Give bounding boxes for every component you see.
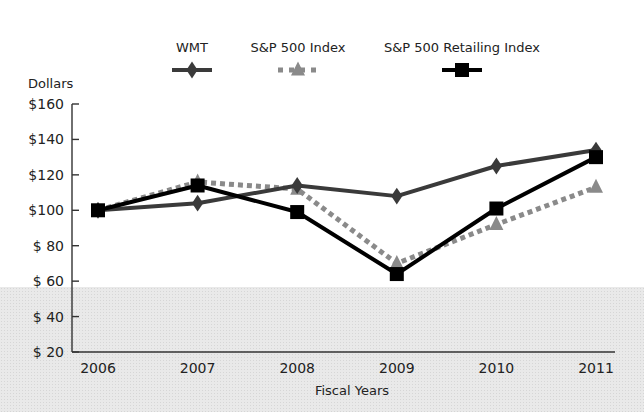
square-marker-icon	[589, 150, 603, 164]
diamond-marker-icon	[186, 62, 197, 79]
legend-item: WMT	[172, 40, 212, 78]
x-axis-label: Fiscal Years	[315, 383, 389, 398]
y-tick-label: $ 80	[33, 238, 64, 254]
y-tick-label: $120	[28, 167, 64, 183]
series-wmt	[92, 142, 601, 219]
legend-item: S&P 500 Index	[250, 40, 345, 76]
series-s-p-500-index	[91, 174, 603, 269]
diamond-marker-icon	[192, 195, 203, 212]
y-tick-label: $100	[28, 202, 64, 218]
square-marker-icon	[455, 63, 469, 77]
square-marker-icon	[290, 205, 304, 219]
y-tick-label: $ 20	[33, 344, 64, 360]
legend-item: S&P 500 Retailing Index	[384, 40, 540, 77]
square-marker-icon	[489, 202, 503, 216]
triangle-marker-icon	[589, 179, 603, 193]
square-marker-icon	[390, 267, 404, 281]
square-marker-icon	[91, 203, 105, 217]
x-tick-label: 2008	[279, 360, 315, 376]
y-tick-label: $160	[28, 96, 64, 112]
x-tick-label: 2010	[479, 360, 515, 376]
legend-label: S&P 500 Index	[250, 40, 345, 55]
y-tick-label: $ 40	[33, 309, 64, 325]
legend: WMTS&P 500 IndexS&P 500 Retailing Index	[172, 40, 540, 78]
square-marker-icon	[191, 178, 205, 192]
diamond-marker-icon	[491, 158, 502, 175]
y-tick-label: $ 60	[33, 273, 64, 289]
diamond-marker-icon	[391, 188, 402, 205]
triangle-marker-icon	[489, 216, 503, 230]
legend-label: S&P 500 Retailing Index	[384, 40, 540, 55]
triangle-marker-icon	[390, 255, 404, 269]
x-tick-label: 2006	[80, 360, 116, 376]
series-s-p-500-retailing-index	[91, 150, 603, 281]
x-tick-label: 2007	[180, 360, 216, 376]
series-lines	[91, 142, 603, 281]
x-tick-label: 2011	[578, 360, 614, 376]
line-chart: WMTS&P 500 IndexS&P 500 Retailing Index …	[0, 0, 644, 412]
x-tick-label: 2009	[379, 360, 415, 376]
legend-label: WMT	[176, 40, 208, 55]
axes: $160$140$120$100$ 80$ 60$ 40$ 2020062007…	[28, 96, 615, 376]
y-tick-label: $140	[28, 131, 64, 147]
y-axis-label: Dollars	[28, 76, 73, 91]
